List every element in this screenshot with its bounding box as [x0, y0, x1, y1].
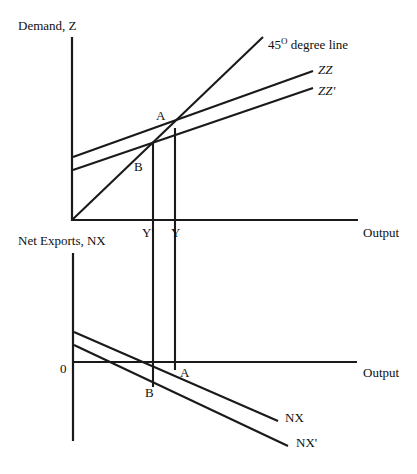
upper-panel-axes [71, 37, 358, 221]
curve-zz-prime-label: ZZ' [318, 84, 335, 97]
upper-panel-curves [72, 37, 313, 220]
line-45-degree-number: 45 [268, 37, 281, 52]
line-45-degree [72, 37, 263, 220]
line-45-degree-text: degree line [288, 37, 349, 52]
curve-zz-label: ZZ [318, 63, 332, 76]
upper-y-axis-label: Demand, Z [18, 19, 76, 32]
lower-panel-axes [72, 253, 357, 441]
line-45-degree-label: 45O degree line [268, 37, 348, 51]
upper-x-axis-label: Output [363, 226, 399, 239]
economics-diagram: Demand, Z 45O degree line ZZ ZZ' A B Y' … [0, 0, 417, 474]
curve-zz [73, 71, 313, 157]
lower-point-b-label: B [145, 386, 154, 399]
lower-panel-curves [74, 332, 288, 446]
lower-origin-label: 0 [60, 362, 67, 375]
lower-y-axis-label: Net Exports, NX [18, 234, 106, 247]
upper-point-a-label: A [156, 109, 165, 122]
curve-nx-label: NX [285, 411, 304, 424]
upper-point-b-label: B [134, 160, 143, 173]
lower-point-a-label: A [180, 366, 189, 379]
xtick-y-prime-label: Y' [142, 226, 154, 239]
curve-zz-prime [73, 88, 313, 170]
curve-nx-prime [74, 345, 288, 446]
xtick-y-label: Y [171, 226, 180, 239]
curve-nx-prime-label: NX' [296, 436, 317, 449]
lower-x-axis-label: Output [363, 366, 399, 379]
